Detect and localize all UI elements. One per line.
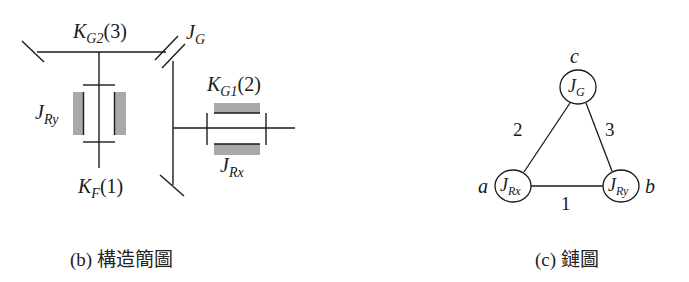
label-kg2: KG2(3) (72, 20, 127, 46)
label-jg: JG (186, 21, 205, 47)
jry-inertia-left (73, 92, 83, 135)
edge-3-label: 3 (605, 119, 615, 140)
structure-diagram (22, 36, 295, 196)
node-a-letter: a (478, 175, 488, 197)
node-b-letter: b (645, 175, 655, 197)
node-c-letter: c (570, 45, 579, 67)
label-jry: JRy (35, 101, 59, 127)
label-kf: KF(1) (77, 175, 123, 201)
diagram-canvas: KG2(3) JG KG1(2) JRy JRx KF(1) JG JRx JR… (0, 0, 689, 282)
gear-mesh-line-1 (155, 36, 178, 60)
label-kg1: KG1(2) (206, 73, 261, 99)
caption-chain: (c) 鏈圖 (535, 244, 599, 271)
bottom-bevel-gear (160, 175, 184, 196)
caption-structure: (b) 構造簡圖 (70, 244, 173, 271)
edge-2-label: 2 (513, 119, 523, 140)
jrx-inertia-top (214, 103, 260, 113)
edge-1-label: 1 (561, 193, 571, 214)
jry-inertia-right (115, 92, 126, 135)
label-jrx: JRx (220, 154, 244, 180)
edge-2 (524, 103, 570, 172)
